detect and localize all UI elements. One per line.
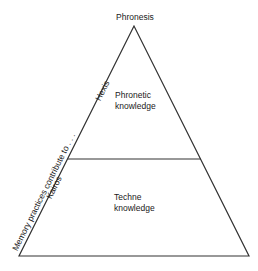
pyramid-outline: [19, 26, 249, 256]
bottom-level-label: Techne knowledge: [114, 192, 155, 214]
top-level-line1: Phronetic: [115, 90, 156, 101]
apex-label: Phronesis: [116, 12, 154, 23]
bottom-level-line2: knowledge: [114, 203, 155, 214]
bottom-level-line1: Techne: [114, 192, 155, 203]
top-level-label: Phronetic knowledge: [115, 90, 156, 112]
top-level-line2: knowledge: [115, 101, 156, 112]
pyramid-diagram: [0, 0, 258, 271]
